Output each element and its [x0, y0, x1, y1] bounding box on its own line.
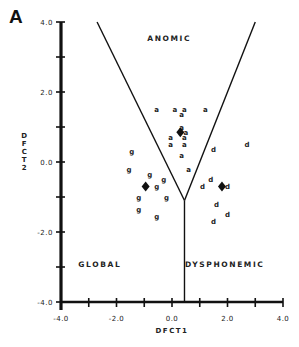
point-a: a: [203, 106, 208, 114]
y-tick-label: -4.0: [37, 299, 53, 307]
x-tick-label: 4.0: [277, 315, 290, 323]
point-g: g: [161, 176, 166, 184]
y-axis-title-char: F: [22, 140, 28, 148]
region-label-global: GLOBAL: [78, 260, 121, 269]
point-a: a: [186, 166, 191, 174]
point-a: a: [179, 111, 184, 119]
region-label-dysphonemic: DYSPHONEMIC: [185, 260, 264, 269]
y-axis-title-char: C: [22, 148, 29, 156]
point-d: d: [208, 176, 213, 184]
boundary-line: [184, 22, 255, 201]
scatter-plot: ANOMICGLOBALDYSPHONEMIC aaaaaaaaaaaaaggg…: [0, 0, 299, 347]
boundary-line: [97, 22, 184, 201]
point-g: g: [154, 213, 159, 221]
point-d: d: [214, 201, 219, 209]
point-g: g: [136, 206, 141, 214]
point-d: d: [211, 146, 216, 154]
y-tick-label: 0.0: [40, 159, 53, 167]
point-g: g: [154, 183, 159, 191]
point-g: g: [136, 194, 141, 202]
data-points: aaaaaaaaaaaaagggggggggdddddddd: [126, 106, 249, 226]
y-tick-label: 2.0: [40, 89, 53, 97]
point-g: g: [129, 148, 134, 156]
x-axis-title: DFCT1: [156, 327, 189, 335]
point-g: g: [147, 171, 152, 179]
point-d: d: [225, 183, 230, 191]
point-a: a: [179, 152, 184, 160]
x-tick-label: 0.0: [166, 315, 179, 323]
point-a: a: [154, 106, 159, 114]
point-d: d: [200, 183, 205, 191]
centroid-diamond-g: [142, 182, 150, 192]
point-a: a: [172, 106, 177, 114]
y-axis-title-char: 2: [22, 164, 28, 172]
point-d: d: [244, 141, 249, 149]
x-tick-label: -2.0: [109, 315, 125, 323]
point-d: d: [211, 218, 216, 226]
x-tick-label: -4.0: [53, 315, 69, 323]
y-tick-label: 4.0: [40, 19, 53, 27]
x-tick-label: 2.0: [221, 315, 234, 323]
y-axis-title-char: T: [22, 156, 28, 164]
y-tick-label: -2.0: [37, 229, 53, 237]
point-g: g: [126, 166, 131, 174]
y-axis-title-char: D: [21, 132, 28, 140]
point-g: g: [164, 194, 169, 202]
point-a: a: [182, 141, 187, 149]
point-a: a: [168, 141, 173, 149]
region-label-anomic: ANOMIC: [147, 34, 191, 43]
point-d: d: [225, 211, 230, 219]
